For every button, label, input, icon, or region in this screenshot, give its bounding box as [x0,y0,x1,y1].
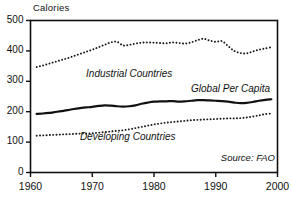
x-tick-label: 2000 [253,180,292,192]
series-label-industrial-countries: Industrial Countries [86,68,172,79]
series-label-global-per-capita: Global Per Capita [191,83,270,94]
y-tick-label: 200 [0,105,24,116]
series-label-developing-countries: Developing Countries [80,131,176,142]
y-tick-label: 400 [0,44,24,55]
series-line-industrial-countries [37,39,272,67]
y-tick-label: 100 [0,135,24,146]
series-line-global-per-capita [37,99,272,114]
x-tick-label: 1970 [67,180,117,192]
source-note: Source: FAO [221,152,275,163]
x-tick-label: 1990 [191,180,241,192]
y-tick-label: 500 [0,14,24,25]
y-tick-label: 0 [0,166,24,177]
chart-canvas [0,0,291,203]
calories-line-chart: Calories Industrial Countries Global Per… [0,0,291,203]
x-tick-label: 1960 [6,180,56,192]
x-tick-label: 1980 [129,180,179,192]
y-tick-label: 300 [0,74,24,85]
